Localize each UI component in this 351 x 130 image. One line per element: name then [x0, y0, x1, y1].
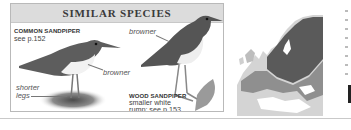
range-map: [237, 15, 323, 116]
wood-sandpiper-annotation-browner: browner: [129, 27, 156, 36]
cropped-text-column: [345, 10, 351, 80]
wood-sandpiper-description-line2: rump; see p.153: [129, 106, 181, 112]
common-sandpiper-annotation-legs: legs: [16, 91, 30, 100]
similar-species-panel: SIMILAR SPECIES COMMON SANDPIPER see p.1…: [10, 3, 224, 112]
leader-line: [31, 96, 67, 97]
common-sandpiper-annotation-browner: browner: [103, 68, 130, 77]
page-divider: [0, 118, 351, 119]
